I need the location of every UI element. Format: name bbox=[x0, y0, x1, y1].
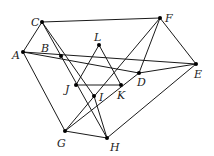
point-b bbox=[59, 54, 63, 58]
label-b: B bbox=[40, 42, 49, 55]
label-k: K bbox=[116, 89, 126, 102]
point-i bbox=[92, 94, 96, 98]
point-f bbox=[158, 16, 162, 20]
segment-cf bbox=[42, 18, 160, 22]
point-j bbox=[74, 83, 78, 87]
point-k bbox=[119, 83, 123, 87]
segment-gh bbox=[65, 131, 107, 138]
segment-fd bbox=[139, 18, 160, 73]
segment-ad bbox=[23, 52, 139, 73]
segment-lk bbox=[99, 45, 121, 85]
label-d: D bbox=[136, 76, 146, 89]
point-d bbox=[137, 71, 141, 75]
label-i: I bbox=[98, 91, 104, 104]
point-h bbox=[105, 136, 109, 140]
line-segments bbox=[23, 18, 196, 138]
segment-ag bbox=[23, 52, 65, 131]
geometry-diagram: ABCDEFGHIJKL bbox=[0, 0, 214, 156]
label-h: H bbox=[109, 141, 120, 154]
label-j: J bbox=[63, 83, 70, 96]
label-l: L bbox=[93, 31, 101, 44]
label-e: E bbox=[193, 68, 202, 81]
label-f: F bbox=[164, 12, 173, 25]
label-c: C bbox=[31, 16, 40, 29]
label-a: A bbox=[11, 49, 20, 62]
point-a bbox=[21, 50, 25, 54]
point-g bbox=[63, 129, 67, 133]
point-e bbox=[194, 62, 198, 66]
point-c bbox=[40, 20, 44, 24]
label-g: G bbox=[57, 137, 66, 150]
diagram-canvas: ABCDEFGHIJKL bbox=[0, 0, 214, 156]
